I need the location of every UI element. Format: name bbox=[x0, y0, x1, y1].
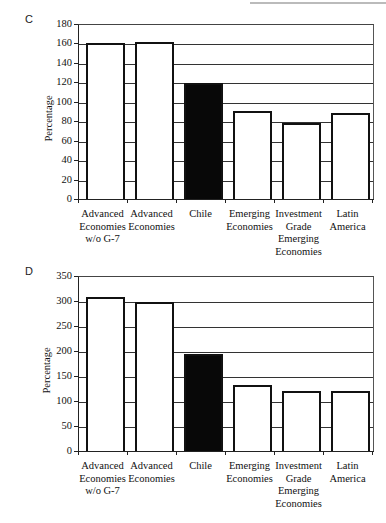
y-tick-label: 0 bbox=[36, 446, 72, 456]
x-tick-label-line: w/o G-7 bbox=[70, 485, 136, 498]
x-tick-label-line: w/o G-7 bbox=[70, 233, 136, 246]
y-tick-label: 60 bbox=[36, 136, 72, 146]
bar-investment-grade-emerging-economies bbox=[282, 391, 320, 453]
y-tick-label: 160 bbox=[36, 38, 72, 48]
y-tick-mark bbox=[74, 301, 78, 302]
y-tick-mark bbox=[74, 24, 78, 25]
x-tick-label-line: America bbox=[315, 221, 381, 234]
x-tick-label-line: Economies bbox=[119, 221, 185, 234]
bar-advanced-economies bbox=[135, 42, 173, 200]
x-tick-mark bbox=[323, 451, 324, 455]
y-tick-label: 50 bbox=[36, 421, 72, 431]
bar-investment-grade-emerging-economies bbox=[282, 123, 320, 200]
plot-area bbox=[78, 24, 374, 200]
y-tick-label: 200 bbox=[36, 346, 72, 356]
page-edge-line bbox=[250, 2, 386, 4]
y-tick-label: 140 bbox=[36, 58, 72, 68]
bar-latin-america bbox=[331, 391, 369, 452]
bar-latin-america bbox=[331, 113, 369, 200]
y-tick-mark bbox=[74, 63, 78, 64]
y-tick-mark bbox=[74, 276, 78, 277]
x-tick-mark bbox=[274, 451, 275, 455]
y-tick-mark bbox=[74, 376, 78, 377]
x-tick-label: LatinAmerica bbox=[315, 208, 381, 233]
x-tick-mark bbox=[78, 199, 79, 203]
y-tick-label: 180 bbox=[36, 19, 72, 29]
y-tick-label: 100 bbox=[36, 97, 72, 107]
y-tick-mark bbox=[74, 180, 78, 181]
x-tick-label-line: Economies bbox=[266, 498, 332, 511]
bar-advanced-economies bbox=[135, 302, 173, 452]
x-axis bbox=[78, 451, 374, 452]
x-tick-mark bbox=[372, 199, 373, 203]
y-tick-mark bbox=[74, 102, 78, 103]
x-tick-label: LatinAmerica bbox=[315, 460, 381, 485]
y-tick-label: 350 bbox=[36, 271, 72, 281]
x-tick-mark bbox=[176, 451, 177, 455]
x-tick-mark bbox=[274, 199, 275, 203]
x-tick-label-line: Economies bbox=[266, 246, 332, 259]
y-tick-mark bbox=[74, 160, 78, 161]
x-tick-mark bbox=[127, 451, 128, 455]
y-tick-mark bbox=[74, 351, 78, 352]
y-tick-label: 0 bbox=[36, 194, 72, 204]
x-tick-label-line: Emerging bbox=[266, 233, 332, 246]
x-tick-mark bbox=[225, 451, 226, 455]
y-tick-label: 300 bbox=[36, 296, 72, 306]
x-tick-mark bbox=[225, 199, 226, 203]
bar-advanced-economies-w-o-g-7 bbox=[86, 297, 124, 453]
y-tick-mark bbox=[74, 326, 78, 327]
bar-advanced-economies-w-o-g-7 bbox=[86, 43, 124, 200]
y-tick-label: 250 bbox=[36, 321, 72, 331]
x-tick-mark bbox=[176, 199, 177, 203]
panel-letter: C bbox=[25, 13, 33, 25]
y-tick-mark bbox=[74, 43, 78, 44]
bar-emerging-economies bbox=[233, 385, 271, 453]
y-tick-mark bbox=[74, 141, 78, 142]
bar-chile bbox=[184, 83, 222, 200]
y-tick-label: 80 bbox=[36, 116, 72, 126]
y-tick-label: 100 bbox=[36, 396, 72, 406]
y-tick-mark bbox=[74, 82, 78, 83]
bar-emerging-economies bbox=[233, 111, 271, 200]
x-tick-label-line: Latin bbox=[315, 460, 381, 473]
plot-area bbox=[78, 276, 374, 452]
y-tick-mark bbox=[74, 426, 78, 427]
x-tick-mark bbox=[372, 451, 373, 455]
x-tick-label-line: Economies bbox=[119, 473, 185, 486]
x-axis bbox=[78, 199, 374, 200]
y-axis-label: Percentage bbox=[41, 333, 52, 393]
x-tick-mark bbox=[127, 199, 128, 203]
x-tick-label-line: Latin bbox=[315, 208, 381, 221]
y-tick-label: 20 bbox=[36, 175, 72, 185]
x-tick-mark bbox=[323, 199, 324, 203]
y-tick-label: 40 bbox=[36, 155, 72, 165]
x-tick-label-line: Emerging bbox=[266, 485, 332, 498]
y-tick-label: 120 bbox=[36, 77, 72, 87]
x-tick-mark bbox=[78, 451, 79, 455]
y-tick-mark bbox=[74, 401, 78, 402]
bar-chile bbox=[184, 354, 222, 452]
y-axis-label: Percentage bbox=[43, 81, 54, 141]
panel-letter: D bbox=[25, 265, 33, 277]
y-tick-mark bbox=[74, 121, 78, 122]
y-tick-label: 150 bbox=[36, 371, 72, 381]
x-tick-label-line: America bbox=[315, 473, 381, 486]
